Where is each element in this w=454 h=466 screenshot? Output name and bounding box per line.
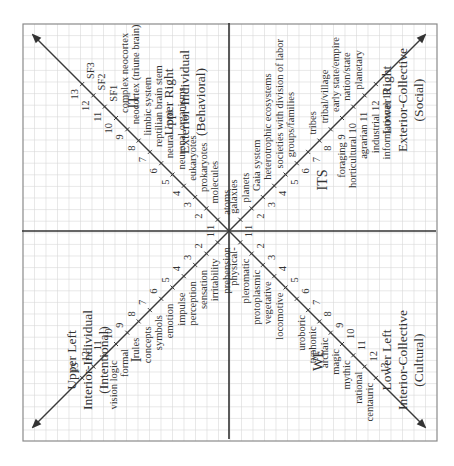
level-label: protoplasmic [251,270,262,325]
upper-left-title: Upper Left [64,330,79,390]
tick-number: 13 [69,89,80,100]
lower-right-paren: (Social) [411,79,426,122]
upper-right-code: IT [126,95,141,109]
tick-number: 12 [368,351,379,362]
lower-left-paren: (Cultural) [411,333,426,386]
level-label: limbic system [142,77,153,136]
level-label: tribes [307,111,318,134]
tick-number: 1 [243,225,254,230]
tick-number: 2 [193,213,204,218]
upper-right-paren: (Behavioral) [193,68,208,136]
tick-number: 5 [289,180,300,185]
tick-number: 2 [193,243,204,248]
tick-number: 2 [255,213,266,218]
tick-number: 3 [182,255,193,260]
level-label: concepts [142,326,153,363]
tick-number: 5 [289,277,300,282]
tick-number: 3 [266,202,277,207]
level-label: early state/empire [330,37,341,112]
level-labels: 1prehension2irritability3sensation4perce… [69,24,392,421]
level-label: tribal/village [319,69,330,123]
tick-number: 6 [300,289,311,294]
tick-number: 1 [205,225,216,230]
level-label: locomotive [274,292,285,340]
level-label: emotion [164,303,175,338]
level-label: mythic [341,360,352,390]
tick-number: 7 [137,300,148,305]
level-label: galaxies [228,179,239,213]
level-label: magic [330,349,341,375]
tick-number: 4 [277,265,288,271]
tick-number: 6 [148,289,159,294]
tick-number: 1 [243,232,254,237]
level-label: nation/state [341,52,352,101]
level-label: centauric [364,383,375,422]
tick-number: 5 [160,277,171,282]
upper-left-code: I [129,357,144,362]
tick-number: 10 [103,123,114,134]
upper-left-paren: (Intentional) [96,326,111,393]
upper-right-title: Upper Right [161,68,176,135]
tick-number: 4 [171,265,182,271]
level-label: rules [130,338,141,358]
level-label: groups/families [285,92,296,157]
tick-number: 3 [182,202,193,207]
level-label: perception [187,280,198,325]
level-label: pleromatic [240,258,251,303]
upper-right-subtitle: Exterior-Individual [177,50,192,154]
level-label: agrarian 11 [358,112,369,159]
level-label: SF3 [85,62,96,79]
level-label: rational [353,372,364,404]
level-label: societies with division of labor [274,39,285,169]
level-label: sensation [198,269,209,309]
tick-number: 9 [114,322,125,327]
level-label: symbols [153,315,164,350]
upper-left-subtitle: Interior-Individual [80,310,95,410]
lower-left-title: Lower Left [379,329,394,390]
tick-number: 8 [126,146,137,151]
tick-number: 7 [311,300,322,305]
tick-number: 6 [148,168,159,173]
level-label: SF2 [96,73,107,90]
tick-number: 11 [356,340,367,350]
upper-left-arrow [33,231,229,427]
level-label: prokaryotes [198,143,209,193]
level-label: physical- [228,247,239,286]
level-label: Gaia system [251,139,262,191]
lower-right-title: Lower Right [379,65,394,134]
tick-number: 4 [171,190,182,196]
level-label: uroboric [296,315,307,351]
tick-number: 9 [114,134,125,139]
level-label: impulse [176,292,187,326]
tick-number: 3 [266,255,277,260]
lower-left-code: WE [311,349,326,371]
tick-number: 7 [311,157,322,162]
tick-number: 9 [334,322,345,327]
lower-right-code: ITS [315,170,330,191]
tick-number: 2 [255,243,266,248]
level-label: foraging 9 [336,134,347,177]
level-label: planets [240,173,251,203]
level-label: planetary [353,50,364,90]
lower-right-subtitle: Exterior-Collective [395,48,410,152]
tick-number: 5 [160,180,171,185]
tick-number: 8 [322,146,333,151]
tick-number: 11 [92,112,103,122]
level-label: heterotrophic ecosystems [262,73,273,179]
tick-number: 7 [137,157,148,162]
tick-number: 8 [322,311,333,316]
level-label: SF1 [108,85,119,102]
tick-number: 4 [277,190,288,196]
tick-number: 6 [300,168,311,173]
level-label: molecules [209,161,220,204]
tick-number: 10 [345,329,356,340]
level-label: horticultural 10 [347,123,358,188]
tick-number: 1 [205,232,216,237]
tick-number: 12 [80,100,91,111]
tick-number: 8 [126,311,137,316]
four-quadrant-diagram: 1prehension2irritability3sensation4perce… [0,0,454,466]
level-label: vegetative [262,281,273,324]
lower-left-subtitle: Interior-Collective [395,310,410,410]
level-label: irritability [209,258,220,301]
